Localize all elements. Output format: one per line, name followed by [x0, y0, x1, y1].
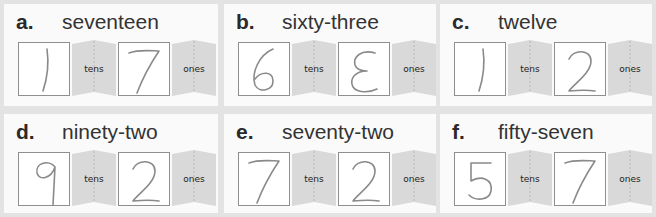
- exercise-title: e. seventy-two: [236, 120, 394, 146]
- exercise-panel-b: b. sixty-three tens ones: [224, 4, 436, 106]
- tens-digit-box[interactable]: [18, 152, 70, 206]
- tens-handwritten-digit: [19, 153, 71, 207]
- place-value-strip: tens ones: [454, 42, 656, 100]
- ones-tab: ones: [608, 148, 652, 210]
- exercise-panel-f: f. fifty-seven tens ones: [440, 114, 652, 213]
- ones-tab: ones: [392, 38, 436, 100]
- ones-handwritten-digit: [119, 153, 171, 207]
- exercise-letter: a.: [16, 10, 62, 34]
- exercise-panel-a: a. seventeen tens ones: [4, 4, 218, 106]
- exercise-title: f. fifty-seven: [452, 120, 594, 146]
- tens-handwritten-digit: [455, 43, 507, 97]
- ones-handwritten-digit: [339, 43, 391, 97]
- ones-digit-box[interactable]: [554, 152, 606, 206]
- ones-label: ones: [608, 174, 652, 184]
- ones-digit-box[interactable]: [118, 42, 170, 96]
- exercise-letter: e.: [236, 120, 282, 144]
- exercise-title: b. sixty-three: [236, 10, 379, 36]
- tens-tab: tens: [72, 148, 116, 210]
- place-value-strip: tens ones: [18, 152, 220, 210]
- place-value-strip: tens ones: [18, 42, 220, 100]
- tens-label: tens: [292, 174, 336, 184]
- exercise-panel-d: d. ninety-two tens ones: [4, 114, 218, 213]
- ones-digit-box[interactable]: [338, 152, 390, 206]
- ones-digit-box[interactable]: [554, 42, 606, 96]
- exercise-letter: c.: [452, 10, 498, 34]
- ones-label: ones: [172, 174, 216, 184]
- number-word: seventy-two: [282, 120, 394, 144]
- exercise-letter: f.: [452, 120, 498, 144]
- exercise-title: d. ninety-two: [16, 120, 158, 146]
- tens-digit-box[interactable]: [454, 152, 506, 206]
- ones-handwritten-digit: [119, 43, 171, 97]
- exercise-title: a. seventeen: [16, 10, 159, 36]
- ones-handwritten-digit: [555, 153, 607, 207]
- tens-label: tens: [508, 64, 552, 74]
- tens-tab: tens: [508, 38, 552, 100]
- tens-handwritten-digit: [239, 153, 291, 207]
- tens-tab: tens: [292, 38, 336, 100]
- tens-label: tens: [292, 64, 336, 74]
- tens-handwritten-digit: [455, 153, 507, 207]
- tens-digit-box[interactable]: [454, 42, 506, 96]
- ones-handwritten-digit: [339, 153, 391, 207]
- place-value-strip: tens ones: [238, 42, 440, 100]
- ones-handwritten-digit: [555, 43, 607, 97]
- place-value-strip: tens ones: [238, 152, 440, 210]
- tens-handwritten-digit: [239, 43, 291, 97]
- tens-digit-box[interactable]: [18, 42, 70, 96]
- tens-label: tens: [72, 64, 116, 74]
- ones-label: ones: [392, 64, 436, 74]
- exercise-panel-c: c. twelve tens ones: [440, 4, 652, 106]
- number-word: seventeen: [62, 10, 159, 34]
- ones-tab: ones: [172, 38, 216, 100]
- tens-tab: tens: [508, 148, 552, 210]
- tens-tab: tens: [292, 148, 336, 210]
- tens-digit-box[interactable]: [238, 42, 290, 96]
- number-word: twelve: [498, 10, 558, 34]
- tens-handwritten-digit: [19, 43, 71, 97]
- ones-tab: ones: [172, 148, 216, 210]
- exercise-title: c. twelve: [452, 10, 558, 36]
- ones-label: ones: [392, 174, 436, 184]
- ones-tab: ones: [392, 148, 436, 210]
- exercise-letter: b.: [236, 10, 282, 34]
- exercise-panel-e: e. seventy-two tens ones: [224, 114, 436, 213]
- exercise-letter: d.: [16, 120, 62, 144]
- number-word: fifty-seven: [498, 120, 594, 144]
- number-word: sixty-three: [282, 10, 379, 34]
- tens-label: tens: [508, 174, 552, 184]
- ones-tab: ones: [608, 38, 652, 100]
- tens-tab: tens: [72, 38, 116, 100]
- ones-label: ones: [608, 64, 652, 74]
- place-value-strip: tens ones: [454, 152, 656, 210]
- ones-label: ones: [172, 64, 216, 74]
- tens-label: tens: [72, 174, 116, 184]
- number-word: ninety-two: [62, 120, 158, 144]
- tens-digit-box[interactable]: [238, 152, 290, 206]
- ones-digit-box[interactable]: [338, 42, 390, 96]
- ones-digit-box[interactable]: [118, 152, 170, 206]
